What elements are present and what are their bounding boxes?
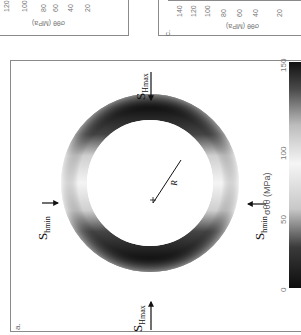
colorbar-tick: 50 [279, 215, 288, 224]
colorbar-tick: 100 [279, 147, 288, 160]
colorbar [289, 62, 301, 288]
shmin-left-label: Shmin [35, 216, 52, 240]
shmax-bottom-label-sub: Hmax [138, 305, 147, 325]
shmax-top-label-main: S [133, 93, 148, 100]
shmax-top-label: SHmax [133, 73, 150, 100]
shmax-top-label-sub: Hmax [141, 73, 150, 93]
colorbar-tick: 150 [279, 59, 288, 72]
colorbar-tick: 0 [279, 288, 288, 292]
shmin-right-label-main: S [252, 233, 267, 240]
shmin-right-label-sub: hmin [260, 216, 269, 232]
shmax-bottom-label: SHmax [130, 305, 147, 332]
panel-a-letter: a. [13, 323, 22, 330]
colorbar-label: σθθ (MPa) [262, 172, 272, 215]
shmin-right-label: Shmin [252, 216, 269, 240]
stress-ring [74, 107, 226, 259]
shmin-left-label-sub: hmin [43, 216, 52, 232]
shmax-bottom-label-main: S [130, 325, 145, 332]
panel-a-graphics [0, 0, 301, 335]
radius-label: R [169, 180, 179, 186]
shmin-left-label-main: S [35, 233, 50, 240]
